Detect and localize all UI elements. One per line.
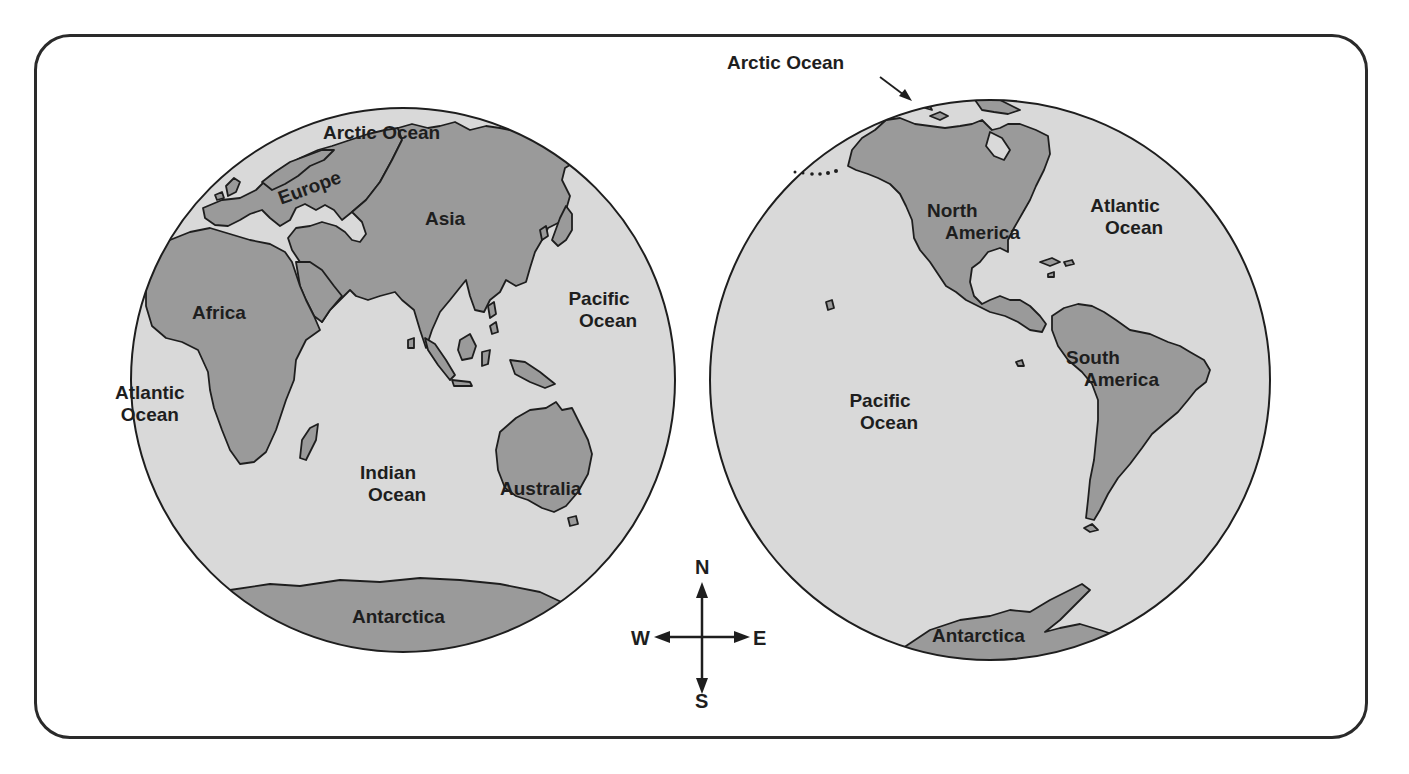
label-antarctica-west: Antarctica — [932, 625, 1025, 647]
west-arrowhead — [654, 631, 670, 643]
label-indian-ocean-line2: Ocean — [350, 484, 426, 506]
label-south-america-line2: America — [1066, 369, 1159, 391]
label-pacific-ocean-west: Pacific Ocean — [842, 390, 918, 434]
label-pacific-ocean-east-line1: Pacific — [561, 288, 637, 310]
label-atlantic-ocean-west: Atlantic Ocean — [1087, 195, 1163, 239]
label-australia: Australia — [500, 478, 581, 500]
sri-lanka — [408, 338, 414, 348]
sulawesi — [482, 350, 490, 366]
compass-east-label: E — [753, 627, 766, 650]
label-atlantic-ocean-east: Atlantic Ocean — [115, 382, 185, 426]
western-hemisphere — [710, 60, 1270, 700]
label-indian-ocean: Indian Ocean — [350, 462, 426, 506]
world-map-svg — [0, 0, 1409, 774]
label-pacific-ocean-east: Pacific Ocean — [561, 288, 637, 332]
tasmania — [568, 516, 578, 526]
arctic-ocean-pointer-arrow — [880, 77, 912, 101]
label-atlantic-ocean-east-line1: Atlantic — [115, 382, 185, 404]
label-africa: Africa — [192, 302, 246, 324]
label-asia: Asia — [425, 208, 465, 230]
label-antarctica-east: Antarctica — [352, 606, 445, 628]
label-north-america: North America — [927, 200, 1020, 244]
label-pacific-ocean-west-line1: Pacific — [842, 390, 918, 412]
label-arctic-ocean-west: Arctic Ocean — [727, 52, 844, 74]
label-atlantic-ocean-west-line2: Ocean — [1087, 217, 1163, 239]
label-indian-ocean-line1: Indian — [350, 462, 426, 484]
compass-south-label: S — [695, 690, 708, 713]
label-pacific-ocean-east-line2: Ocean — [561, 310, 637, 332]
greenland-landmass — [958, 60, 1050, 94]
label-atlantic-ocean-west-line1: Atlantic — [1087, 195, 1163, 217]
label-pacific-ocean-west-line2: Ocean — [842, 412, 918, 434]
galapagos-island — [1016, 360, 1024, 366]
compass-west-label: W — [631, 627, 650, 650]
antarctica-landmass-east — [120, 578, 620, 700]
hawaii-islands — [826, 300, 834, 310]
compass-north-label: N — [695, 556, 709, 579]
compass-rose — [654, 582, 750, 694]
label-north-america-line1: North — [927, 200, 1020, 222]
label-atlantic-ocean-east-line2: Ocean — [115, 404, 185, 426]
iceland — [232, 146, 250, 155]
label-arctic-ocean-east: Arctic Ocean — [323, 122, 440, 144]
label-north-america-line2: America — [927, 222, 1020, 244]
label-south-america: South America — [1066, 347, 1159, 391]
label-south-america-line1: South — [1066, 347, 1159, 369]
north-arrowhead — [696, 582, 708, 598]
east-arrowhead — [734, 631, 750, 643]
